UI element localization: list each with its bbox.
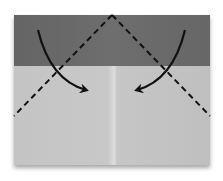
colored-top-band	[14, 15, 210, 66]
origami-diagram	[0, 0, 223, 181]
